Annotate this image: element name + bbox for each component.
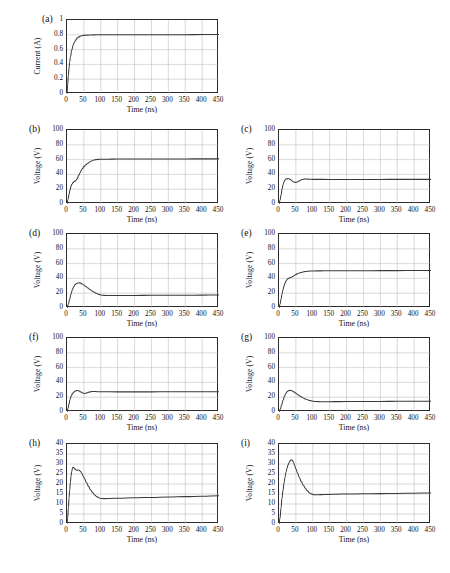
x-tick-label: 150	[323, 310, 334, 318]
x-axis-label: Time (ns)	[127, 423, 157, 432]
y-tick-label: 60	[254, 259, 275, 267]
x-tick-label: 50	[79, 310, 86, 318]
x-tick-label: 400	[196, 310, 207, 318]
y-tick-label: 20	[254, 184, 275, 192]
plot-area	[278, 129, 430, 203]
y-tick-label: 5	[42, 509, 63, 517]
y-axis-label: Voltage (V)	[245, 252, 254, 289]
x-tick-label: 250	[357, 206, 368, 214]
x-tick-label: 450	[425, 310, 436, 318]
y-tick-label: 10	[254, 499, 275, 507]
data-curve	[279, 460, 431, 524]
x-tick-label: 250	[145, 414, 156, 422]
x-tick-label: 350	[391, 206, 402, 214]
x-tick-label: 450	[213, 414, 224, 422]
x-tick-label: 0	[276, 206, 280, 214]
y-tick-label: 40	[42, 273, 63, 281]
x-tick-label: 200	[128, 526, 139, 534]
y-tick-label: 40	[254, 273, 275, 281]
x-tick-label: 400	[408, 310, 419, 318]
x-tick-label: 350	[179, 310, 190, 318]
x-tick-label: 50	[291, 414, 298, 422]
plot-area	[66, 19, 218, 93]
x-axis-label: Time (ns)	[127, 105, 157, 114]
x-tick-label: 350	[391, 526, 402, 534]
data-curve	[279, 390, 431, 412]
y-tick-label: 0.4	[42, 59, 63, 67]
x-tick-label: 250	[357, 526, 368, 534]
x-tick-label: 450	[425, 206, 436, 214]
x-tick-label: 150	[111, 96, 122, 104]
x-tick-label: 350	[179, 96, 190, 104]
y-tick-label: 20	[254, 479, 275, 487]
y-tick-label: 0	[42, 303, 63, 311]
y-tick-label: 40	[254, 439, 275, 447]
y-tick-label: 80	[42, 244, 63, 252]
y-tick-label: 100	[42, 229, 63, 237]
x-tick-label: 100	[306, 206, 317, 214]
x-tick-label: 350	[391, 310, 402, 318]
y-axis-label: Voltage (V)	[245, 465, 254, 502]
plot-area	[66, 337, 218, 411]
y-tick-label: 80	[254, 244, 275, 252]
x-tick-label: 250	[357, 310, 368, 318]
x-tick-label: 150	[323, 414, 334, 422]
x-tick-label: 300	[162, 526, 173, 534]
panel-label: (h)	[29, 439, 40, 449]
y-axis-label: Voltage (V)	[33, 465, 42, 502]
y-tick-label: 40	[42, 169, 63, 177]
y-tick-label: 0	[254, 407, 275, 415]
y-tick-label: 80	[42, 140, 63, 148]
x-tick-label: 100	[94, 310, 105, 318]
panel-label: (i)	[241, 439, 250, 449]
figure-container: (a)00.20.40.60.8105010015020025030035040…	[0, 0, 450, 573]
y-tick-label: 40	[42, 439, 63, 447]
x-tick-label: 250	[145, 310, 156, 318]
x-tick-label: 200	[128, 310, 139, 318]
y-tick-label: 25	[254, 469, 275, 477]
y-tick-label: 0	[254, 303, 275, 311]
x-tick-label: 0	[64, 96, 68, 104]
y-axis-label: Voltage (V)	[33, 148, 42, 185]
y-tick-label: 60	[42, 259, 63, 267]
x-tick-label: 250	[145, 206, 156, 214]
x-tick-label: 100	[306, 414, 317, 422]
y-tick-label: 100	[254, 125, 275, 133]
y-tick-label: 0	[42, 89, 63, 97]
panel-label: (d)	[29, 229, 40, 239]
x-tick-label: 300	[374, 310, 385, 318]
y-tick-label: 100	[42, 333, 63, 341]
y-tick-label: 15	[42, 489, 63, 497]
y-tick-label: 100	[254, 333, 275, 341]
y-axis-label: Voltage (V)	[33, 356, 42, 393]
y-tick-label: 80	[254, 348, 275, 356]
y-tick-label: 5	[254, 509, 275, 517]
x-axis-label: Time (ns)	[339, 319, 369, 328]
x-tick-label: 450	[425, 414, 436, 422]
x-tick-label: 100	[94, 206, 105, 214]
x-tick-label: 150	[323, 526, 334, 534]
x-tick-label: 200	[128, 414, 139, 422]
x-tick-label: 300	[374, 206, 385, 214]
y-tick-label: 0.8	[42, 30, 63, 38]
x-tick-label: 450	[213, 206, 224, 214]
x-tick-label: 50	[291, 526, 298, 534]
y-tick-label: 15	[254, 489, 275, 497]
data-curve	[67, 283, 219, 308]
y-tick-label: 10	[42, 499, 63, 507]
data-curve	[279, 179, 431, 204]
y-tick-label: 40	[254, 377, 275, 385]
x-tick-label: 0	[64, 526, 68, 534]
x-tick-label: 200	[340, 310, 351, 318]
x-tick-label: 150	[111, 310, 122, 318]
x-tick-label: 400	[196, 526, 207, 534]
y-axis-label: Current (A)	[33, 38, 42, 75]
y-tick-label: 60	[254, 155, 275, 163]
x-tick-label: 200	[128, 206, 139, 214]
x-tick-label: 150	[111, 526, 122, 534]
y-tick-label: 35	[42, 449, 63, 457]
y-tick-label: 20	[42, 184, 63, 192]
x-tick-label: 150	[111, 414, 122, 422]
y-tick-label: 20	[42, 479, 63, 487]
x-tick-label: 350	[179, 206, 190, 214]
